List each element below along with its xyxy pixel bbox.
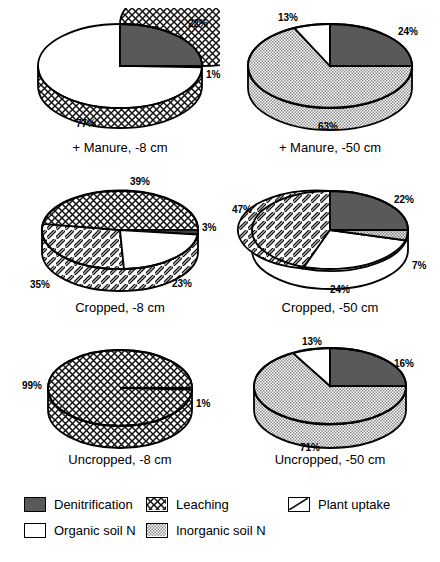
pie-chart-uncropped-8cm: 99% 1% [20,336,220,454]
legend-label-organic-soil-n: Organic soil N [54,522,136,539]
pct-label-leaching: 99% [22,380,42,391]
pct-label-plant-uptake: 35% [30,279,50,290]
legend-label-plant-uptake: Plant uptake [318,496,390,513]
caption-cropped-50cm: Cropped, -50 cm [220,300,440,315]
caption-cropped-8cm: Cropped, -8 cm [10,300,230,315]
caption-manure-50cm: + Manure, -50 cm [220,140,440,155]
pct-label-organic-soil-n: 13% [302,336,322,347]
pie-chart-uncropped-50cm-graphic [230,336,430,454]
pct-label-inorganic-soil-n: 63% [318,121,338,132]
pie-chart-manure-50cm: 13% 24% 63% [230,8,430,138]
legend-swatch-organic-soil-n-icon [24,523,46,538]
pie-chart-manure-8cm: 22% 1% 77% [20,8,220,138]
pie-chart-cropped-8cm: 39% 3% 23% 35% [20,176,220,301]
pct-label-denitrification: 3% [202,222,216,233]
slice-leaching [43,190,198,230]
pct-label-inorganic-soil-n: 7% [412,260,426,271]
pct-label-organic-soil-n: 1% [196,398,210,409]
pie-chart-figure: 22% 1% 77% + Manure, -8 cm 13% 24% 63% +… [0,0,440,562]
legend-swatch-inorganic-soil-n-icon [146,523,168,538]
pie-chart-uncropped-50cm: 13% 16% 71% [230,336,430,454]
pct-label-denitrification: 16% [394,358,414,369]
pie-chart-cropped-50cm: 47% 22% 7% 24% [230,176,430,301]
legend-label-leaching: Leaching [176,496,229,513]
caption-uncropped-50cm: Uncropped, -50 cm [220,452,440,467]
legend-swatch-leaching-icon [146,497,168,512]
pct-label-organic-soil-n: 1% [206,69,220,80]
pct-label-denitrification: 24% [398,26,418,37]
pct-label-leaching: 39% [130,176,150,187]
legend-swatch-denitrification-icon [24,497,46,512]
pct-label-organic-soil-n: 23% [172,278,192,289]
slice-organic-soil-n [120,66,202,67]
pct-label-leaching: 77% [76,118,96,129]
pct-label-organic-soil-n: 13% [278,12,298,23]
legend-label-denitrification: Denitrification [54,496,133,513]
pie-chart-uncropped-8cm-graphic [20,336,220,454]
pct-label-denitrification: 22% [188,18,208,29]
pct-label-denitrification: 22% [394,194,414,205]
caption-uncropped-8cm: Uncropped, -8 cm [10,452,230,467]
caption-manure-8cm: + Manure, -8 cm [10,140,230,155]
legend: Denitrification Leaching Plant uptake Or… [0,492,440,552]
pct-label-organic-soil-n: 24% [330,284,350,295]
legend-label-inorganic-soil-n: Inorganic soil N [176,522,266,539]
pct-label-plant-uptake: 47% [232,204,252,215]
legend-swatch-plant-uptake-icon [288,497,310,512]
